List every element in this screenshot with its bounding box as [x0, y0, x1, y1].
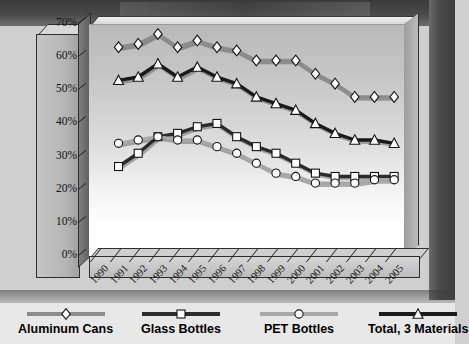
- triangle-marker: [411, 307, 425, 321]
- scan-right-band: [429, 0, 455, 300]
- series-glass-bottles: [115, 119, 399, 180]
- legend-label: Total, 3 Materials: [368, 322, 469, 336]
- legend-item-total-3-materials[interactable]: Total, 3 Materials: [368, 307, 469, 336]
- circle-marker: [292, 307, 306, 321]
- chart-legend: Aluminum CansGlass BottlesPET BottlesTot…: [0, 303, 455, 344]
- legend-item-pet-bottles[interactable]: PET Bottles: [256, 307, 342, 336]
- legend-label: Glass Bottles: [141, 322, 221, 336]
- legend-item-glass-bottles[interactable]: Glass Bottles: [138, 307, 224, 336]
- square-marker: [174, 307, 188, 321]
- series-plot: [28, 16, 432, 292]
- chart-3d-frame: 0%10%20%30%40%50%60%70% 1990199119921993…: [28, 16, 432, 292]
- legend-swatch: [375, 307, 461, 321]
- legend-label: PET Bottles: [264, 322, 334, 336]
- legend-swatch: [23, 307, 109, 321]
- legend-swatch: [256, 307, 342, 321]
- diamond-marker: [59, 307, 73, 321]
- legend-item-aluminum-cans[interactable]: Aluminum Cans: [18, 307, 113, 336]
- legend-swatch: [138, 307, 224, 321]
- legend-label: Aluminum Cans: [18, 322, 113, 336]
